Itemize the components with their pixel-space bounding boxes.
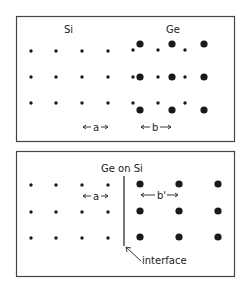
spacing-a-label: a	[93, 191, 99, 202]
interface-pointer	[127, 248, 141, 261]
si-atom	[131, 48, 134, 51]
ge-atom	[214, 233, 221, 240]
si-atom	[106, 75, 109, 78]
ge-atom	[214, 207, 221, 214]
spacing-b-prime-label: b'	[157, 190, 166, 201]
si-atom	[54, 236, 57, 239]
spacing-a-marker: a	[83, 191, 108, 202]
spacing-a-marker: a	[83, 122, 108, 133]
si-atom	[29, 49, 32, 52]
si-atom	[80, 101, 83, 104]
si-atom	[131, 101, 134, 104]
si-atom	[156, 48, 159, 51]
ge-atom	[175, 233, 182, 240]
si-atom	[183, 48, 186, 51]
ge-atom	[168, 73, 175, 80]
ge-atom	[214, 180, 221, 187]
si-atom	[54, 183, 57, 186]
si-atom	[54, 49, 57, 52]
si-atom	[106, 49, 109, 52]
si-atom	[54, 75, 57, 78]
si-atoms	[29, 49, 109, 104]
ge-atom	[168, 40, 175, 47]
si-atom	[80, 210, 83, 213]
si-label: Si	[64, 24, 73, 35]
ge-on-si-title: Ge on Si	[101, 163, 143, 174]
top-panel: Si Ge a b	[17, 17, 235, 142]
si-atom	[183, 75, 186, 78]
lattice-diagram: Si Ge a b Ge on Si interface	[0, 0, 252, 286]
si-atom	[183, 101, 186, 104]
ge-atom	[136, 180, 143, 187]
si-atom	[29, 183, 32, 186]
ge-atom	[136, 207, 143, 214]
interface-label: interface	[142, 255, 187, 266]
si-atom	[106, 183, 109, 186]
ge-atom	[200, 106, 207, 113]
si-atom	[106, 101, 109, 104]
spacing-b-marker: b	[141, 122, 171, 133]
si-atom	[29, 236, 32, 239]
ge-large-atoms	[136, 40, 207, 113]
ge-atom	[136, 73, 143, 80]
si-atom	[54, 210, 57, 213]
ge-atoms	[136, 180, 221, 240]
si-atom	[29, 75, 32, 78]
ge-atom	[136, 233, 143, 240]
ge-label: Ge	[166, 24, 180, 35]
si-atom	[80, 183, 83, 186]
si-atom	[80, 49, 83, 52]
si-atom	[29, 210, 32, 213]
si-atom	[156, 75, 159, 78]
ge-atom	[168, 106, 175, 113]
bottom-panel: Ge on Si interface a b'	[17, 152, 235, 277]
si-atom	[29, 101, 32, 104]
si-atom	[80, 75, 83, 78]
si-atom	[80, 236, 83, 239]
ge-atom	[175, 207, 182, 214]
si-atom	[131, 75, 134, 78]
si-atom	[106, 236, 109, 239]
si-atom	[156, 101, 159, 104]
si-atom	[106, 210, 109, 213]
spacing-b-label: b	[152, 122, 158, 133]
spacing-b-prime-marker: b'	[141, 190, 178, 201]
ge-atom	[175, 180, 182, 187]
ge-atom	[136, 106, 143, 113]
spacing-a-label: a	[93, 122, 99, 133]
ge-atom	[136, 40, 143, 47]
si-atom	[54, 101, 57, 104]
ge-atom	[200, 73, 207, 80]
ge-atom	[200, 40, 207, 47]
